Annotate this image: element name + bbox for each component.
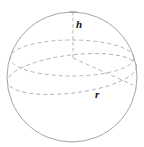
great-circle-ellipse	[5, 47, 139, 101]
figure-canvas	[0, 0, 144, 147]
sphere-outline	[7, 12, 137, 142]
radius-label-r: r	[95, 89, 99, 100]
cross-section-ellipse	[10, 40, 134, 76]
height-label-h: h	[76, 19, 82, 30]
sphere-cross-section-figure: h r	[0, 0, 144, 147]
radius-segment	[73, 58, 133, 85]
